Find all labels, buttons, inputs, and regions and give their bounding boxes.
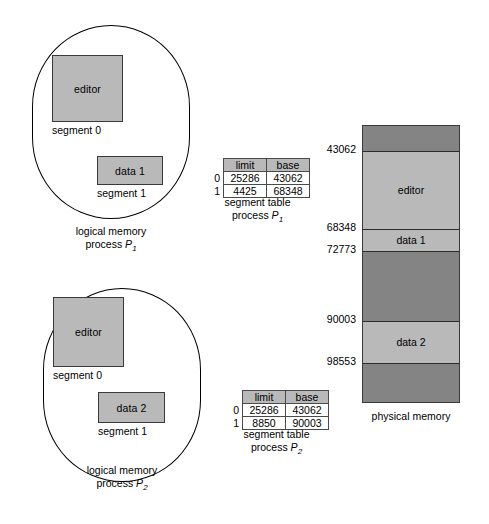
logical-memory-caption-line2: process P1 xyxy=(32,238,190,252)
segment-table-caption-line2: process P1 xyxy=(209,209,306,223)
physical-memory-block: editor data 1 data 2 xyxy=(362,125,460,403)
column-header-limit: limit xyxy=(224,159,267,172)
physical-address-43062: 43062 xyxy=(300,143,356,155)
process-word: process xyxy=(232,209,272,221)
process-subscript: 2 xyxy=(143,483,147,492)
process-word: process xyxy=(96,477,136,489)
physical-band-label: data 1 xyxy=(396,234,425,246)
segment-caption-text: segment 1 xyxy=(98,425,147,437)
process-subscript: 1 xyxy=(132,244,136,253)
segmentation-diagram: editor segment 0 data 1 segment 1 logica… xyxy=(0,0,489,524)
segment-box-editor-p1: editor xyxy=(52,55,123,122)
row-index: 0 xyxy=(228,404,243,417)
segment-table-p1: limit base 0 25286 43062 1 4425 68348 xyxy=(209,158,310,198)
column-header-limit: limit xyxy=(243,391,286,404)
cell-limit: 25286 xyxy=(243,404,286,417)
process-subscript: 1 xyxy=(279,215,283,224)
index-header-spacer xyxy=(228,391,243,404)
process-var: P xyxy=(291,441,298,453)
logical-memory-caption-p2: logical memory process P2 xyxy=(43,464,201,491)
segment-table-caption-p2: segment table process P2 xyxy=(228,428,325,455)
cell-base: 43062 xyxy=(286,404,329,417)
physical-band-data2: data 2 xyxy=(363,321,459,363)
logical-memory-caption-line1: logical memory xyxy=(43,464,201,477)
table-row: 0 25286 43062 xyxy=(209,172,310,185)
index-header-spacer xyxy=(209,159,224,172)
physical-boundary-rule xyxy=(363,363,459,364)
segment-table-p2: limit base 0 25286 43062 1 8850 90003 xyxy=(228,390,329,430)
physical-boundary-rule xyxy=(363,321,459,322)
cell-base: 43062 xyxy=(267,172,310,185)
table-header-row: limit base xyxy=(228,391,329,404)
table-header-row: limit base xyxy=(209,159,310,172)
segment-caption-0-p2: segment 0 xyxy=(53,369,102,382)
physical-address-68348: 68348 xyxy=(300,221,356,233)
segment-box-label: data 2 xyxy=(117,402,147,414)
segment-table-caption-line1: segment table xyxy=(228,428,325,441)
segment-caption-text: segment 0 xyxy=(53,369,102,381)
physical-boundary-rule xyxy=(363,229,459,230)
physical-band-label: editor xyxy=(398,184,424,196)
physical-memory-caption: physical memory xyxy=(340,410,482,423)
physical-address-90003: 90003 xyxy=(300,313,356,325)
physical-boundary-rule xyxy=(363,151,459,152)
segment-box-label: editor xyxy=(75,326,102,338)
logical-memory-caption-line2: process P2 xyxy=(43,477,201,491)
process-word: process xyxy=(251,441,291,453)
segment-box-label: data 1 xyxy=(115,165,145,177)
table-row: 0 25286 43062 xyxy=(228,404,329,417)
column-header-base: base xyxy=(267,159,310,172)
physical-band-editor: editor xyxy=(363,151,459,229)
segment-caption-0-p1: segment 0 xyxy=(52,124,101,137)
physical-band-free-top xyxy=(363,126,459,151)
segment-box-editor-p2: editor xyxy=(53,297,124,367)
column-header-base: base xyxy=(286,391,329,404)
logical-memory-caption-p1: logical memory process P1 xyxy=(32,225,190,252)
segment-box-label: editor xyxy=(74,83,101,95)
process-subscript: 2 xyxy=(298,447,302,456)
segment-box-data2-p2: data 2 xyxy=(98,392,165,423)
segment-table-caption-p1: segment table process P1 xyxy=(209,196,306,223)
cell-limit: 25286 xyxy=(224,172,267,185)
physical-band-label: data 2 xyxy=(396,336,425,348)
physical-band-free-bottom xyxy=(363,363,459,402)
segment-caption-text: segment 1 xyxy=(97,187,146,199)
segment-caption-1-p2: segment 1 xyxy=(98,425,147,438)
process-word: process xyxy=(85,238,125,250)
segment-table-caption-line2: process P2 xyxy=(228,441,325,455)
logical-memory-caption-line1: logical memory xyxy=(32,225,190,238)
segment-box-data1-p1: data 1 xyxy=(97,156,163,185)
process-var: P xyxy=(272,209,279,221)
row-index: 0 xyxy=(209,172,224,185)
physical-boundary-rule xyxy=(363,251,459,252)
physical-address-72773: 72773 xyxy=(300,243,356,255)
physical-band-data1: data 1 xyxy=(363,229,459,251)
segment-table-caption-line1: segment table xyxy=(209,196,306,209)
segment-caption-1-p1: segment 1 xyxy=(97,187,146,200)
physical-band-free-middle xyxy=(363,251,459,321)
physical-address-98553: 98553 xyxy=(300,355,356,367)
segment-caption-text: segment 0 xyxy=(52,124,101,136)
